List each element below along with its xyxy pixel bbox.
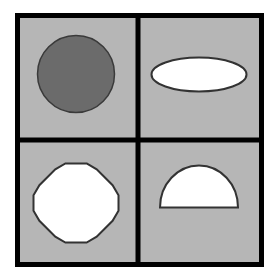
dark-circle-shape xyxy=(38,36,115,113)
white-ellipse-shape xyxy=(152,58,247,92)
shape-grid-diagram xyxy=(0,0,277,280)
